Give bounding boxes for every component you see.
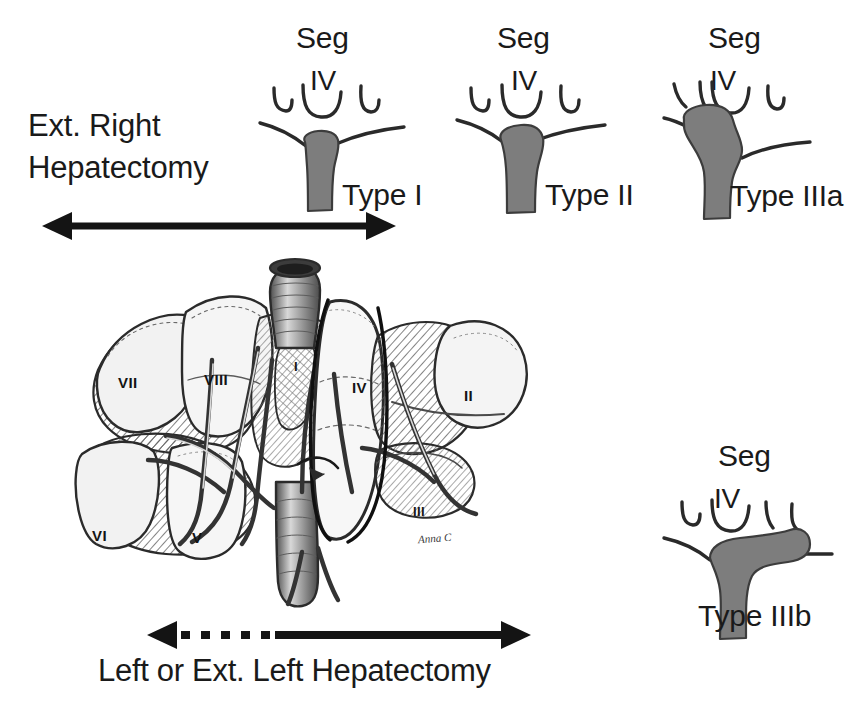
liver-segment-label-IV: IV [352, 380, 367, 396]
vena-cava-lumen-inner [277, 264, 313, 275]
liver-segment-label-VI: VI [92, 528, 107, 544]
liver-segment-label-II: II [464, 388, 473, 404]
type-3b-seg-label: Seg [718, 440, 771, 472]
arrow-head-left-top [42, 212, 72, 240]
liver-anatomy-illustration: VII VIII I IV II VI V III Anna C [62, 252, 562, 624]
left-hepatectomy-label: Left or Ext. Left Hepatectomy [98, 655, 491, 688]
type-1-seg-label: Seg [296, 22, 349, 54]
liver-segment-label-VIII: VIII [204, 372, 228, 388]
type-3a-label: Type IIIa [730, 180, 843, 212]
type-2-label: Type II [545, 179, 634, 211]
artist-signature: Anna C [418, 532, 452, 546]
liver-segment-label-VII: VII [118, 375, 138, 391]
liver-segment-II-plate [435, 321, 527, 427]
arrow-head-right-bottom [501, 621, 531, 649]
liver-segment-label-III: III [413, 505, 425, 519]
left-hepatectomy-arrow [145, 616, 535, 654]
ext-right-hepatectomy-label-line1: Ext. Right [28, 110, 160, 143]
type-3a-seg-label: Seg [708, 22, 761, 54]
type-1-label: Type I [342, 179, 423, 211]
type-2-seg-label: Seg [497, 22, 550, 54]
type-3b-label: Type IIIb [698, 600, 811, 632]
ext-right-hepatectomy-label-line2: Hepatectomy [28, 152, 208, 185]
liver-segment-label-I: I [294, 360, 298, 374]
liver-segment-VI-plate [76, 442, 159, 549]
figure-canvas: Ext. Right Hepatectomy Seg IV [0, 0, 868, 703]
liver-segment-label-V: V [192, 530, 202, 546]
arrow-head-left-bottom [147, 621, 177, 649]
